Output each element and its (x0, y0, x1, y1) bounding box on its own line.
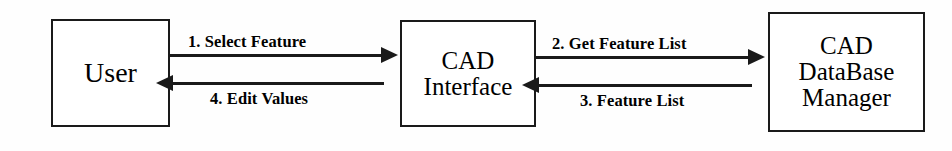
node-cad-database-manager-label-line-3: Manager (802, 85, 891, 111)
node-cad-interface-label-line-1: CAD (442, 48, 495, 74)
node-cad-database-manager-label-line-1: CAD (820, 33, 873, 59)
node-cad-interface: CAD Interface (400, 20, 536, 127)
arrowhead-right-icon-select-feature (381, 47, 398, 63)
node-user-label-line-1: User (84, 58, 137, 87)
connector-feature-list (536, 84, 752, 87)
edge-label-edit-values: 4. Edit Values (210, 89, 308, 109)
arrowhead-left-icon-feature-list (522, 77, 539, 93)
arrowhead-right-icon-get-feature-list (748, 49, 765, 65)
node-cad-interface-label-line-2: Interface (424, 74, 513, 100)
connector-get-feature-list (536, 56, 752, 59)
node-cad-database-manager-label-line-2: DataBase (799, 59, 895, 85)
connector-select-feature (170, 54, 384, 57)
edge-label-get-feature-list: 2. Get Feature List (552, 34, 686, 54)
node-cad-database-manager: CAD DataBase Manager (768, 12, 925, 132)
edge-label-feature-list: 3. Feature List (580, 91, 684, 111)
connector-edit-values (170, 82, 384, 85)
node-user: User (51, 19, 170, 127)
edge-label-select-feature: 1. Select Feature (188, 32, 306, 52)
arrowhead-left-icon-edit-values (156, 75, 173, 91)
diagram-canvas: User CAD Interface CAD DataBase Manager … (0, 0, 952, 151)
